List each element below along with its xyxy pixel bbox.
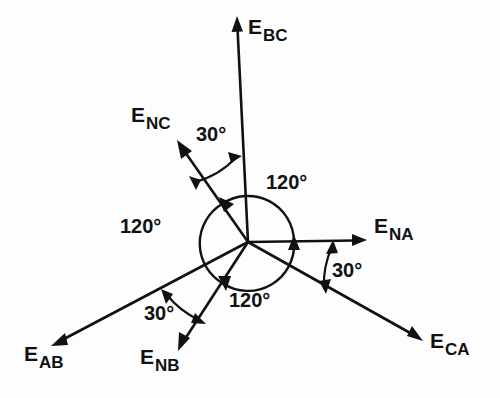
vector-label-enc: ENC <box>131 104 170 125</box>
angle-label-120-top: 120° <box>266 172 307 192</box>
vector-subscript-enc: NC <box>146 114 171 133</box>
vector-symbol-eca: E <box>430 329 444 352</box>
vector-ebc <box>232 16 249 242</box>
angle-label-30-top: 30° <box>196 124 226 144</box>
vector-symbol-eab: E <box>24 342 38 365</box>
phasor-diagram: EBC ENC ENA ECA ENB EAB 30° 30° 30° 120°… <box>0 0 500 398</box>
phasor-diagram-canvas <box>0 0 500 398</box>
vector-eca <box>248 242 423 341</box>
vector-eab <box>51 242 248 346</box>
vector-subscript-eca: CA <box>445 340 470 359</box>
angle-label-120-bottom: 120° <box>229 290 270 310</box>
angle-label-30-bottomleft: 30° <box>144 303 174 323</box>
vector-label-ebc: EBC <box>248 16 287 37</box>
vector-label-enb: ENB <box>140 346 179 367</box>
vector-ena <box>248 234 367 246</box>
vector-subscript-ebc: BC <box>263 26 288 45</box>
vector-symbol-enc: E <box>131 103 145 126</box>
vector-symbol-ebc: E <box>248 15 262 38</box>
angle-label-30-right: 30° <box>332 260 362 280</box>
vector-subscript-eab: AB <box>39 353 64 372</box>
vector-label-eca: ECA <box>430 330 469 351</box>
vector-label-ena: ENA <box>374 215 413 236</box>
vector-symbol-ena: E <box>374 214 388 237</box>
angle-label-120-left: 120° <box>120 216 161 236</box>
vector-symbol-enb: E <box>140 345 154 368</box>
vector-label-eab: EAB <box>24 343 63 364</box>
vector-subscript-ena: NA <box>389 225 414 244</box>
vector-subscript-enb: NB <box>155 356 180 375</box>
